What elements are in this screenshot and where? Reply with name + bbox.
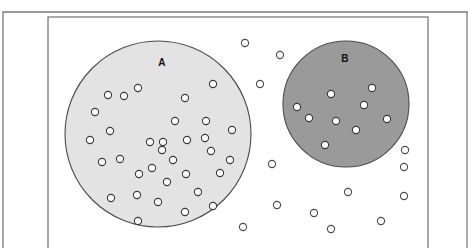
data-point-dot <box>239 223 246 230</box>
data-point-dot <box>194 188 201 195</box>
data-point-dot <box>181 94 188 101</box>
data-point-dot <box>133 191 140 198</box>
data-point-dot <box>293 103 300 110</box>
data-point-dot <box>310 209 317 216</box>
data-point-dot <box>98 158 105 165</box>
data-point-dot <box>154 198 161 205</box>
data-point-dot <box>276 51 283 58</box>
data-point-dot <box>368 84 375 91</box>
data-point-dot <box>148 164 155 171</box>
data-point-dot <box>183 136 190 143</box>
data-point-dot <box>116 155 123 162</box>
data-point-dot <box>401 146 408 153</box>
data-point-dot <box>104 91 111 98</box>
data-point-dot <box>158 146 165 153</box>
data-point-dot <box>171 117 178 124</box>
data-point-dot <box>226 156 233 163</box>
data-point-dot <box>400 163 407 170</box>
region-b-label: B <box>341 53 348 64</box>
data-point-dot <box>209 80 216 87</box>
data-point-dot <box>352 126 359 133</box>
data-point-dot <box>146 138 153 145</box>
data-point-dot <box>201 134 208 141</box>
data-point-dot <box>228 126 235 133</box>
data-point-dot <box>383 115 390 122</box>
data-point-dot <box>332 117 339 124</box>
data-point-dot <box>106 127 113 134</box>
data-point-dot <box>134 84 141 91</box>
data-point-dot <box>268 160 275 167</box>
data-point-dot <box>360 101 367 108</box>
data-point-dot <box>120 92 127 99</box>
data-point-dot <box>207 147 214 154</box>
data-point-dot <box>321 141 328 148</box>
data-point-dot <box>400 192 407 199</box>
data-point-dot <box>181 208 188 215</box>
data-point-dot <box>202 117 209 124</box>
data-point-dot <box>256 80 263 87</box>
data-point-dot <box>241 39 248 46</box>
data-point-dot <box>91 108 98 115</box>
data-point-dot <box>377 217 384 224</box>
data-point-dot <box>209 202 216 209</box>
figure-canvas: AB <box>0 0 468 248</box>
data-point-dot <box>107 194 114 201</box>
data-point-dot <box>327 225 334 232</box>
data-point-dot <box>134 217 141 224</box>
data-point-dot <box>327 90 334 97</box>
data-point-dot <box>305 114 312 121</box>
data-point-dot <box>169 156 176 163</box>
data-point-dot <box>86 136 93 143</box>
region-a-label: A <box>158 57 165 68</box>
data-point-dot <box>344 188 351 195</box>
data-point-dot <box>216 169 223 176</box>
data-point-dot <box>135 170 142 177</box>
data-point-dot <box>182 170 189 177</box>
figure-root: AB <box>0 0 468 248</box>
data-point-dot <box>273 201 280 208</box>
data-point-dot <box>159 138 166 145</box>
data-point-dot <box>163 178 170 185</box>
